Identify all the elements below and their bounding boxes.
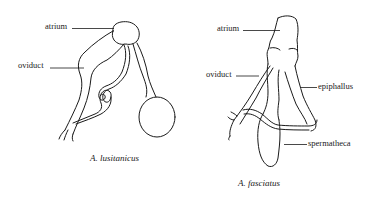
specimen-lusitanicus: atrium oviduct A. lusitanicus — [18, 21, 175, 163]
label-oviduct-left: oviduct — [18, 60, 44, 70]
caption-fasciatus: A. fasciatus — [237, 178, 280, 188]
label-oviduct-right: oviduct — [206, 69, 232, 79]
atrium-shape-left — [112, 22, 139, 45]
oviduct-ends-left — [59, 130, 73, 141]
caption-lusitanicus: A. lusitanicus — [89, 153, 139, 163]
epiphallus-right — [285, 66, 316, 131]
atrium-shape-right — [267, 16, 298, 66]
atrium-crease-right — [270, 48, 297, 50]
oviduct-outer-left — [65, 31, 113, 130]
oviduct-ends-right — [228, 112, 237, 140]
genitalia-diagram: atrium oviduct A. lusitanicus atrium ovi… — [0, 0, 381, 205]
label-spermatheca: spermatheca — [308, 138, 351, 148]
spermatheca-stalk-left — [133, 44, 147, 97]
spermatheca-bulb-left — [139, 97, 175, 137]
label-epiphallus: epiphallus — [318, 81, 353, 91]
specimen-fasciatus: atrium oviduct epiphallus spermatheca A.… — [206, 16, 353, 188]
spermatheca-right — [258, 114, 280, 167]
oviduct-right — [230, 66, 273, 136]
label-atrium-right: atrium — [217, 23, 240, 33]
label-atrium-left: atrium — [45, 21, 68, 31]
